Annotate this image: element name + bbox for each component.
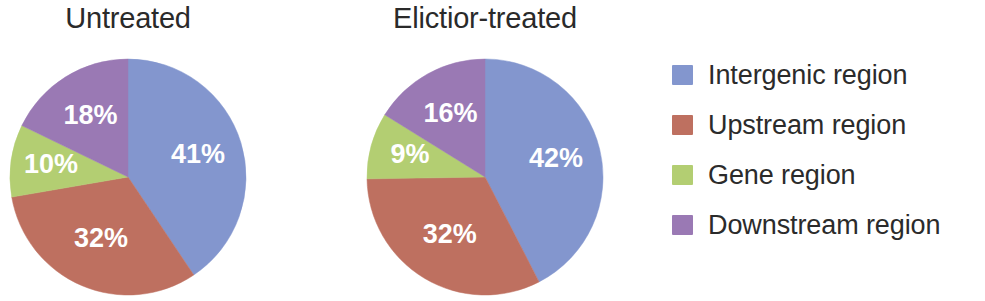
pie-svg-untreated: 41%32%10%18% (8, 57, 248, 297)
pie-slice-label: 32% (74, 223, 128, 253)
pie-panel-elictior-treated: Elictior-treated 42%32%9%16% (357, 0, 613, 301)
pie-chart-elictior-treated: 42%32%9%16% (365, 57, 605, 297)
legend-item[interactable]: Intergenic region (672, 50, 940, 100)
pie-panel-untreated: Untreated 41%32%10%18% (0, 0, 256, 301)
legend-item[interactable]: Gene region (672, 150, 940, 200)
pie-slice-label: 9% (390, 139, 429, 169)
pie-title-untreated: Untreated (0, 2, 256, 35)
legend-item[interactable]: Upstream region (672, 100, 940, 150)
pie-slice-label: 16% (424, 98, 478, 128)
pie-chart-untreated: 41%32%10%18% (8, 57, 248, 297)
pie-svg-elictior-treated: 42%32%9%16% (365, 57, 605, 297)
legend-swatch-icon (672, 165, 693, 185)
legend-swatch-icon (672, 65, 693, 85)
pie-slice-label: 32% (423, 219, 477, 249)
legend-item-label: Gene region (708, 160, 856, 191)
legend-item[interactable]: Downstream region (672, 200, 940, 250)
pie-slice-label: 42% (529, 143, 583, 173)
pie-slice-label: 10% (24, 149, 78, 179)
legend-swatch-icon (672, 115, 693, 135)
pie-title-elictior-treated: Elictior-treated (357, 2, 613, 35)
legend-item-label: Upstream region (708, 110, 906, 141)
legend-item-label: Downstream region (708, 210, 940, 241)
pie-slice-label: 18% (63, 100, 117, 130)
figure-root: Untreated 41%32%10%18% Elictior-treated … (0, 0, 985, 301)
legend-item-label: Intergenic region (708, 60, 907, 91)
legend-swatch-icon (672, 215, 693, 235)
pie-slice-label: 41% (171, 139, 225, 169)
legend: Intergenic regionUpstream regionGene reg… (672, 50, 940, 250)
